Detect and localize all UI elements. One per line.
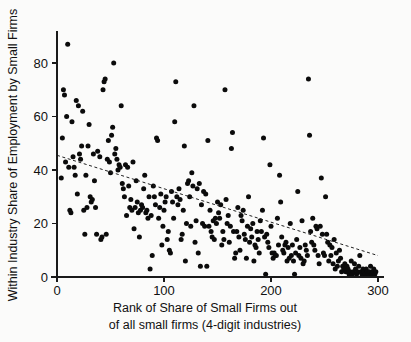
data-point bbox=[157, 205, 162, 210]
data-point bbox=[237, 248, 242, 253]
data-point bbox=[235, 205, 240, 210]
data-point bbox=[294, 237, 299, 242]
data-point bbox=[198, 264, 203, 269]
data-point bbox=[312, 248, 317, 253]
data-point bbox=[188, 224, 193, 229]
data-point bbox=[83, 173, 88, 178]
data-point bbox=[241, 208, 246, 213]
data-point bbox=[257, 250, 262, 255]
data-point bbox=[300, 218, 305, 223]
data-point bbox=[156, 216, 161, 221]
data-point bbox=[291, 258, 296, 263]
data-point bbox=[155, 138, 160, 143]
data-point bbox=[101, 87, 106, 92]
data-point bbox=[78, 157, 83, 162]
data-point bbox=[84, 205, 89, 210]
data-point bbox=[191, 103, 196, 108]
data-point bbox=[307, 133, 312, 138]
data-point bbox=[261, 135, 266, 140]
data-point bbox=[286, 245, 291, 250]
y-tick-label: 0 bbox=[41, 270, 48, 285]
data-point bbox=[373, 269, 378, 274]
data-point bbox=[193, 240, 198, 245]
data-point bbox=[149, 213, 154, 218]
data-point bbox=[277, 173, 282, 178]
x-tick-label: 100 bbox=[153, 283, 175, 298]
data-point bbox=[303, 242, 308, 247]
data-point bbox=[135, 200, 140, 205]
data-point bbox=[160, 224, 165, 229]
data-point bbox=[144, 208, 149, 213]
data-point bbox=[187, 194, 192, 199]
data-point bbox=[132, 226, 137, 231]
y-tick-label: 40 bbox=[34, 163, 48, 178]
x-tick-label: 300 bbox=[367, 283, 389, 298]
data-point bbox=[326, 258, 331, 263]
x-axis-label-line1: Rank of Share of Small Firms out bbox=[113, 301, 298, 315]
data-point bbox=[239, 213, 244, 218]
data-point bbox=[90, 197, 95, 202]
data-point bbox=[165, 237, 170, 242]
data-point bbox=[295, 189, 300, 194]
data-point bbox=[141, 186, 146, 191]
data-point bbox=[172, 119, 177, 124]
data-point bbox=[133, 205, 138, 210]
data-point bbox=[125, 165, 130, 170]
data-point bbox=[77, 151, 82, 156]
data-point bbox=[297, 245, 302, 250]
data-point bbox=[256, 237, 261, 242]
data-point bbox=[283, 240, 288, 245]
data-point bbox=[203, 192, 208, 197]
data-point bbox=[357, 253, 362, 258]
data-point bbox=[97, 154, 102, 159]
data-point bbox=[267, 162, 272, 167]
data-point bbox=[182, 143, 187, 148]
data-point bbox=[111, 61, 116, 66]
data-point bbox=[220, 229, 225, 234]
data-point bbox=[248, 226, 253, 231]
data-point bbox=[106, 138, 111, 143]
data-point bbox=[159, 242, 164, 247]
chart-canvas: 0100200300 020406080 Rank of Share of Sm… bbox=[0, 0, 411, 342]
data-point bbox=[61, 87, 66, 92]
data-point bbox=[316, 253, 321, 258]
data-point bbox=[310, 216, 315, 221]
data-point bbox=[255, 229, 260, 234]
data-point bbox=[304, 248, 309, 253]
data-point bbox=[311, 242, 316, 247]
data-point bbox=[92, 178, 97, 183]
data-point bbox=[63, 159, 68, 164]
data-point bbox=[195, 186, 200, 191]
data-point bbox=[104, 232, 109, 237]
data-point bbox=[166, 229, 171, 234]
data-point bbox=[236, 234, 241, 239]
data-point bbox=[66, 165, 71, 170]
data-point bbox=[274, 253, 279, 258]
data-point bbox=[338, 256, 343, 261]
data-point bbox=[68, 210, 73, 215]
data-point bbox=[322, 253, 327, 258]
data-point bbox=[204, 264, 209, 269]
data-point bbox=[178, 197, 183, 202]
data-point bbox=[150, 253, 155, 258]
data-point bbox=[186, 178, 191, 183]
scatter-plot-figure: 0100200300 020406080 Rank of Share of Sm… bbox=[0, 0, 411, 342]
data-point bbox=[121, 186, 126, 191]
data-point bbox=[214, 221, 219, 226]
data-point bbox=[183, 258, 188, 263]
data-point bbox=[329, 245, 334, 250]
data-point bbox=[208, 208, 213, 213]
data-point bbox=[199, 202, 204, 207]
data-point bbox=[128, 197, 133, 202]
data-point bbox=[147, 194, 152, 199]
data-point bbox=[74, 98, 79, 103]
data-point bbox=[79, 143, 84, 148]
data-point bbox=[137, 234, 142, 239]
data-point bbox=[264, 232, 269, 237]
data-point bbox=[99, 234, 104, 239]
data-point bbox=[118, 165, 123, 170]
data-point bbox=[356, 264, 361, 269]
data-point bbox=[279, 234, 284, 239]
data-point bbox=[335, 264, 340, 269]
data-point bbox=[181, 208, 186, 213]
